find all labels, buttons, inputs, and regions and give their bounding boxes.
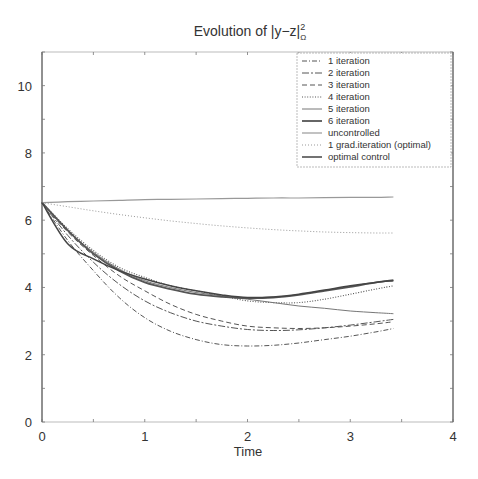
series-line [42,203,393,346]
x-tick-label: 0 [38,429,45,444]
legend-label: 4 iteration [328,91,370,102]
series-line [42,203,393,233]
series-line [42,197,393,203]
y-tick-label: 10 [18,79,32,94]
legend-label: 1 grad.iteration (optimal) [328,139,431,150]
y-tick-label: 8 [25,146,32,161]
legend-label: 6 iteration [328,115,370,126]
x-tick-label: 2 [244,429,251,444]
legend-label: uncontrolled [328,127,380,138]
legend-label: 3 iteration [328,79,370,90]
legend-label: 2 iteration [328,67,370,78]
legend-label: optimal control [328,151,390,162]
chart-title: Evolution of |y−z|2Ω [194,22,307,42]
x-tick-label: 3 [347,429,354,444]
y-tick-label: 4 [25,280,32,295]
legend-label: 5 iteration [328,103,370,114]
y-tick-label: 2 [25,348,32,363]
legend-label: 1 iteration [328,55,370,66]
x-tick-label: 1 [141,429,148,444]
x-axis-label: Time [234,444,262,459]
series-line [42,203,393,331]
series-line [42,203,393,298]
series-line [42,203,393,299]
y-tick-label: 6 [25,213,32,228]
series-group [42,197,393,346]
y-tick-label: 0 [25,415,32,430]
line-chart: Evolution of |y−z|2Ω 012340246810 Time 1… [0,0,478,479]
legend: 1 iteration2 iteration3 iteration4 itera… [297,53,451,167]
x-tick-label: 4 [449,429,456,444]
